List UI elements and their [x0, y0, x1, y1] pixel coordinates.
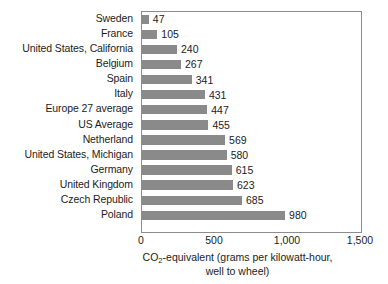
category-label: Belgium: [0, 56, 137, 71]
bar-row: 105: [142, 27, 361, 42]
bar-value-label: 447: [207, 103, 229, 118]
bar-row: 623: [142, 178, 361, 193]
bar-row: 569: [142, 133, 361, 148]
bar-value-label: 105: [157, 27, 179, 42]
category-label: US Average: [0, 117, 137, 132]
bar-row: 685: [142, 193, 361, 208]
category-label: Europe 27 average: [0, 101, 137, 116]
bar-value-label: 47: [149, 12, 165, 27]
category-label: United States, California: [0, 41, 137, 56]
bar-value-label: 685: [242, 193, 264, 208]
value-axis: 05001,0001,500: [141, 234, 361, 248]
subscript-two: 2: [158, 256, 162, 265]
category-label: Sweden: [0, 11, 137, 26]
category-label: United States, Michigan: [0, 147, 137, 162]
bar-row: 47: [142, 12, 361, 27]
bar: [142, 150, 227, 159]
category-label: Netherland: [0, 132, 137, 147]
bar-value-label: 615: [232, 163, 254, 178]
plot-area: 4710524026734143144745556958061562368598…: [141, 11, 362, 233]
bar-value-label: 569: [225, 133, 247, 148]
bar: [142, 211, 285, 220]
bar-row: 615: [142, 163, 361, 178]
bar-value-label: 455: [208, 118, 230, 133]
co2-equivalent-bar-chart: Sweden France United States, California …: [0, 0, 388, 284]
bar-row: 580: [142, 148, 361, 163]
category-axis-labels: Sweden France United States, California …: [0, 11, 137, 222]
category-label: Czech Republic: [0, 192, 137, 207]
bar: [142, 30, 157, 39]
bar-row: 455: [142, 118, 361, 133]
bar-row: 431: [142, 87, 361, 102]
bar: [142, 180, 233, 189]
bar: [142, 196, 242, 205]
bar-row: 341: [142, 72, 361, 87]
bar-value-label: 240: [177, 42, 199, 57]
bar: [142, 15, 149, 24]
bar: [142, 75, 192, 84]
bar: [142, 105, 207, 114]
x-axis-tick-label: 500: [205, 234, 223, 246]
bar: [142, 90, 205, 99]
x-axis-title: CO2-equivalent (grams per kilowatt-hour,…: [114, 251, 361, 278]
bar-value-label: 341: [192, 73, 214, 88]
bar-row: 240: [142, 42, 361, 57]
x-axis-tick-label: 1,000: [274, 234, 300, 246]
category-label: France: [0, 26, 137, 41]
bar: [142, 135, 225, 144]
x-axis-tick-label: 1,500: [347, 234, 373, 246]
x-axis-title-line1: CO2-equivalent (grams per kilowatt-hour,: [143, 251, 333, 263]
bar-value-label: 623: [233, 178, 255, 193]
bar-value-label: 980: [285, 208, 307, 223]
bar: [142, 60, 181, 69]
bar-value-label: 580: [227, 148, 249, 163]
category-label: Spain: [0, 71, 137, 86]
category-label: Germany: [0, 162, 137, 177]
category-label: United Kingdom: [0, 177, 137, 192]
bar-row: 447: [142, 102, 361, 117]
bar: [142, 165, 232, 174]
x-axis-tick-label: 0: [138, 234, 144, 246]
bar-row: 267: [142, 57, 361, 72]
bar-value-label: 267: [181, 57, 203, 72]
bar: [142, 120, 208, 129]
bar-value-label: 431: [205, 88, 227, 103]
category-label: Italy: [0, 86, 137, 101]
bar: [142, 45, 177, 54]
x-axis-title-line2: well to wheel): [206, 265, 270, 277]
category-label: Poland: [0, 207, 137, 222]
bars-layer: 4710524026734143144745556958061562368598…: [142, 12, 361, 232]
bar-row: 980: [142, 208, 361, 223]
